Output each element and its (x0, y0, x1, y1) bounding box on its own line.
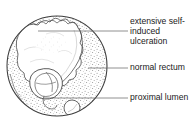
figure-root: extensive self- induced ulceration norma… (0, 0, 194, 129)
label-normal-rectum: normal rectum (130, 62, 185, 72)
ulcer-floor-granulation (34, 35, 66, 53)
specimen-group (7, 8, 114, 122)
label-proximal-lumen: proximal lumen (130, 92, 188, 102)
label-extensive-self-induced-ulceration: extensive self- induced ulceration (130, 16, 185, 46)
